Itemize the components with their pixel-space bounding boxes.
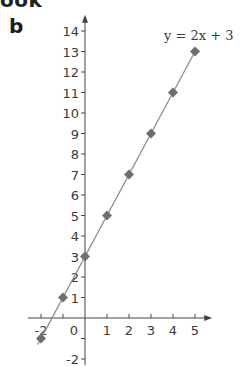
- diamond-marker-icon: [146, 129, 156, 139]
- axis-ticks: -2012345-21234567891011121314: [35, 24, 200, 366]
- y-tick-label: 12: [62, 65, 79, 80]
- y-tick-label: 10: [62, 106, 79, 121]
- diamond-marker-icon: [190, 47, 200, 57]
- diamond-marker-icon: [124, 170, 134, 180]
- y-tick-label: 2: [71, 270, 79, 285]
- x-tick-label: 5: [191, 323, 199, 338]
- y-tick-label: 11: [62, 86, 79, 101]
- y-tick-label: 9: [71, 127, 79, 142]
- diamond-marker-icon: [168, 88, 178, 98]
- y-tick-label: -2: [66, 352, 79, 366]
- diamond-marker-icon: [102, 211, 112, 221]
- y-tick-label: 13: [62, 45, 79, 60]
- line-chart: -2012345-21234567891011121314 y = 2x + 3: [0, 0, 244, 366]
- y-tick-label: 5: [71, 209, 79, 224]
- y-tick-label: 6: [71, 188, 79, 203]
- y-tick-label: 14: [62, 24, 79, 39]
- equation-label: y = 2x + 3: [163, 28, 234, 43]
- x-tick-label: 3: [147, 323, 155, 338]
- y-tick-label: 4: [71, 229, 79, 244]
- data-series: [36, 47, 200, 345]
- x-tick-label: 4: [169, 323, 177, 338]
- x-tick-label: 1: [103, 323, 111, 338]
- diamond-marker-icon: [58, 293, 68, 303]
- y-tick-label: 8: [71, 147, 79, 162]
- y-tick-label: 1: [71, 291, 79, 306]
- diamond-marker-icon: [80, 252, 90, 262]
- x-axis-arrow-icon: [204, 315, 212, 321]
- x-tick-label: 2: [125, 323, 133, 338]
- y-axis-arrow-icon: [82, 15, 88, 23]
- x-tick-label: 0: [70, 323, 78, 338]
- y-tick-label: 3: [71, 250, 79, 265]
- y-tick-label: 7: [71, 168, 79, 183]
